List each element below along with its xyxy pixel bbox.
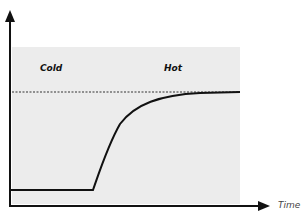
x-axis-arrow-icon (258, 201, 270, 211)
cold-label: Cold (40, 63, 62, 73)
y-axis-arrow-icon (5, 10, 15, 22)
hot-label: Hot (164, 63, 182, 73)
diagram-canvas (0, 0, 303, 216)
time-axis-label: Time (278, 200, 300, 210)
